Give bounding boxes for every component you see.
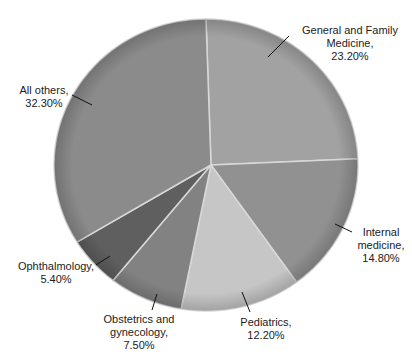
label-text: Medicine, (290, 37, 410, 50)
label-text: medicine, (350, 239, 412, 252)
label-all-others: All others, 32.30% (12, 84, 76, 110)
label-value: 14.80% (350, 252, 412, 265)
label-text: gynecology, (84, 326, 194, 339)
label-value: 7.50% (84, 339, 194, 352)
label-obstetrics-gynecology: Obstetrics and gynecology, 7.50% (84, 313, 194, 352)
label-value: 5.40% (14, 273, 98, 286)
label-value: 32.30% (12, 97, 76, 110)
label-value: 12.20% (226, 329, 306, 342)
label-pediatrics: Pediatrics, 12.20% (226, 316, 306, 342)
label-general-family-medicine: General and Family Medicine, 23.20% (290, 24, 410, 63)
label-text: Pediatrics, (226, 316, 306, 329)
label-text: Internal (350, 226, 412, 239)
label-ophthalmology: Ophthalmology, 5.40% (14, 260, 98, 286)
label-text: Ophthalmology, (14, 260, 98, 273)
label-text: Obstetrics and (84, 313, 194, 326)
label-internal-medicine: Internal medicine, 14.80% (350, 226, 412, 265)
label-text: General and Family (290, 24, 410, 37)
label-value: 23.20% (290, 50, 410, 63)
label-text: All others, (12, 84, 76, 97)
